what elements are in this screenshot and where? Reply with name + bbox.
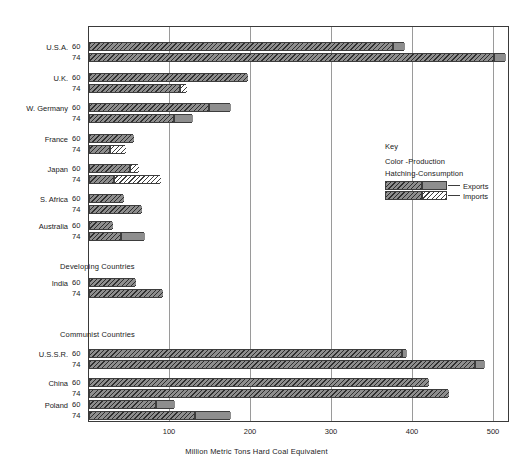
key-imports-swatch-connector	[448, 195, 460, 196]
france-60-consumption-segment	[90, 135, 134, 142]
u-s-s-r-60-bar	[89, 349, 406, 358]
china-60-bar	[89, 378, 428, 387]
year-label-u-k-74: 74	[72, 84, 80, 93]
u-s-s-r-74-export-segment	[475, 361, 485, 368]
year-label-india-74: 74	[72, 289, 80, 298]
year-label-india-60: 60	[72, 278, 80, 287]
u-s-a-74-export-segment	[494, 54, 506, 61]
poland-60-bar	[89, 400, 174, 409]
country-label-s-africa: S. Africa	[0, 195, 68, 204]
year-label-w-germany-60: 60	[72, 103, 80, 112]
w-germany-60-bar	[89, 103, 230, 112]
key-exports-swatch-extra	[422, 182, 446, 189]
u-s-a-74-consumption-segment	[90, 54, 494, 61]
poland-74-bar	[89, 411, 230, 420]
s-africa-60-consumption-segment	[90, 195, 124, 202]
group-header: Developing Countries	[60, 262, 135, 271]
australia-74-bar	[89, 232, 144, 241]
u-s-s-r-60-export-segment	[402, 350, 408, 357]
country-label-australia: Australia	[0, 222, 68, 231]
w-germany-74-consumption-segment	[90, 115, 174, 122]
year-label-u-s-s-r-74: 74	[72, 360, 80, 369]
w-germany-74-bar	[89, 114, 192, 123]
w-germany-60-export-segment	[209, 104, 231, 111]
japan-60-import-segment	[130, 165, 139, 172]
u-s-s-r-60-consumption-segment	[90, 350, 402, 357]
year-label-china-60: 60	[72, 378, 80, 387]
x-tick-200: 200	[235, 427, 265, 436]
year-label-u-s-a-74: 74	[72, 53, 80, 62]
u-k-74-consumption-segment	[90, 85, 180, 92]
france-74-bar	[89, 145, 125, 154]
year-label-s-africa-60: 60	[72, 194, 80, 203]
key-exports-swatch-base	[386, 182, 422, 189]
country-label-w-germany: W. Germany	[0, 104, 68, 113]
key-exports-label: Exports	[463, 182, 488, 191]
year-label-australia-74: 74	[72, 232, 80, 241]
x-tick-100: 100	[154, 427, 184, 436]
japan-74-import-segment	[114, 176, 161, 183]
france-60-bar	[89, 134, 133, 143]
country-label-india: India	[0, 279, 68, 288]
france-74-import-segment	[110, 146, 126, 153]
year-label-s-africa-74: 74	[72, 205, 80, 214]
year-label-u-k-60: 60	[72, 73, 80, 82]
country-label-u-s-a: U.S.A.	[0, 43, 68, 52]
u-k-60-consumption-segment	[90, 74, 248, 81]
key-hatch-note: Hatching-Consumption	[385, 169, 463, 178]
year-label-u-s-s-r-60: 60	[72, 349, 80, 358]
year-label-china-74: 74	[72, 389, 80, 398]
india-60-bar	[89, 278, 135, 287]
u-k-60-bar	[89, 73, 247, 82]
country-label-japan: Japan	[0, 165, 68, 174]
poland-74-export-segment	[195, 412, 231, 419]
s-africa-60-bar	[89, 194, 123, 203]
france-74-consumption-segment	[90, 146, 110, 153]
u-s-a-60-bar	[89, 42, 404, 51]
year-label-australia-60: 60	[72, 221, 80, 230]
u-s-s-r-74-bar	[89, 360, 484, 369]
china-74-consumption-segment	[90, 390, 449, 397]
china-74-bar	[89, 389, 448, 398]
gridline-500	[493, 27, 494, 421]
poland-74-consumption-segment	[90, 412, 195, 419]
key-heading: Key	[385, 142, 398, 151]
key-imports-swatch	[385, 191, 447, 200]
india-74-bar	[89, 289, 162, 298]
year-label-w-germany-74: 74	[72, 114, 80, 123]
year-label-japan-74: 74	[72, 175, 80, 184]
w-germany-60-consumption-segment	[90, 104, 209, 111]
x-tick-500: 500	[478, 427, 508, 436]
key-exports-swatch-connector	[448, 185, 460, 186]
country-label-u-k: U.K.	[0, 74, 68, 83]
china-60-consumption-segment	[90, 379, 429, 386]
year-label-japan-60: 60	[72, 164, 80, 173]
u-k-74-import-segment	[180, 85, 186, 92]
year-label-poland-74: 74	[72, 411, 80, 420]
s-africa-74-bar	[89, 205, 141, 214]
australia-74-export-segment	[121, 233, 145, 240]
country-label-poland: Poland	[0, 401, 68, 410]
group-header: Communist Countries	[60, 330, 135, 339]
key-color-note: Color -Production	[385, 157, 445, 166]
australia-74-consumption-segment	[90, 233, 121, 240]
year-label-france-74: 74	[72, 145, 80, 154]
japan-60-consumption-segment	[90, 165, 130, 172]
s-africa-74-consumption-segment	[90, 206, 142, 213]
poland-60-consumption-segment	[90, 401, 156, 408]
japan-74-bar	[89, 175, 160, 184]
u-s-a-74-bar	[89, 53, 505, 62]
india-74-consumption-segment	[90, 290, 163, 297]
australia-60-bar	[89, 221, 112, 230]
year-label-poland-60: 60	[72, 400, 80, 409]
poland-60-export-segment	[156, 401, 175, 408]
country-label-u-s-s-r: U.S.S.R.	[0, 350, 68, 359]
u-s-a-60-consumption-segment	[90, 43, 393, 50]
india-60-consumption-segment	[90, 279, 136, 286]
u-s-s-r-74-consumption-segment	[90, 361, 475, 368]
w-germany-74-export-segment	[174, 115, 193, 122]
u-k-74-bar	[89, 84, 186, 93]
coal-production-consumption-chart: U.S.A.6074U.K.6074W. Germany6074France60…	[0, 0, 513, 470]
axis-title: Million Metric Tons Hard Coal Equivalent	[0, 447, 513, 456]
u-s-a-60-export-segment	[393, 43, 405, 50]
